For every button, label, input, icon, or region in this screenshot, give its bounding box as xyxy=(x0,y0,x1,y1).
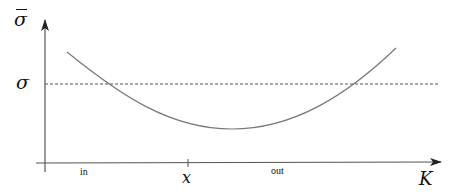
out-region-label: out xyxy=(271,166,284,176)
x-axis-label: K xyxy=(419,170,432,188)
x-tick-label: x xyxy=(182,170,191,186)
sigma-bar-text: σ xyxy=(14,8,27,30)
overline xyxy=(16,9,27,10)
smile-curve xyxy=(67,48,396,129)
in-region-label: in xyxy=(80,167,88,177)
x-axis xyxy=(36,162,441,163)
smile-diagram xyxy=(0,0,458,196)
sigma-level-label: σ xyxy=(16,73,29,92)
sigma-bar-label: σ xyxy=(14,10,27,29)
